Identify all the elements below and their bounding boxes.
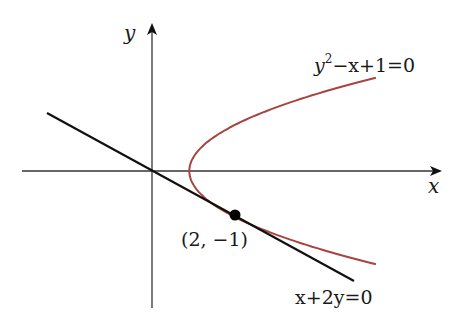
curve-eq-y: y xyxy=(313,54,325,76)
tangent-line xyxy=(47,113,354,281)
curve-equation-label: y2−x+1=0 xyxy=(313,52,415,76)
curve-eq-exponent: 2 xyxy=(325,52,333,66)
line-equation-label: x+2y=0 xyxy=(295,286,372,308)
tangent-point-marker xyxy=(230,210,241,221)
curve-eq-rest: −x+1=0 xyxy=(332,54,415,76)
tangent-point-label: (2, −1) xyxy=(181,228,248,250)
tangent-diagram: y x y2−x+1=0 x+2y=0 (2, −1) xyxy=(0,0,460,336)
y-axis-label: y xyxy=(123,21,136,45)
x-axis-label: x xyxy=(428,174,439,198)
